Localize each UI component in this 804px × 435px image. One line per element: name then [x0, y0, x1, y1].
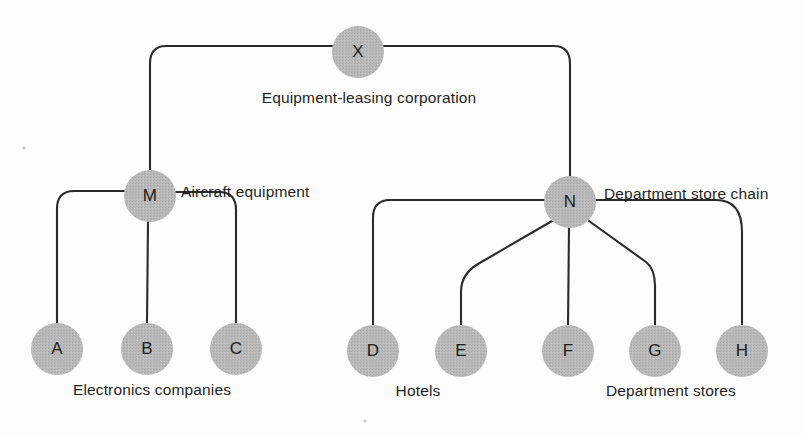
- node-b[interactable]: B: [121, 323, 173, 375]
- node-letter-g: G: [648, 341, 661, 360]
- node-e[interactable]: E: [435, 325, 487, 377]
- label-x: Equipment-leasing corporation: [262, 89, 477, 106]
- edge-m-to-c: [176, 192, 236, 323]
- node-letter-n: N: [564, 192, 576, 211]
- edge-x-to-m: [150, 46, 332, 170]
- node-letter-e: E: [455, 341, 467, 360]
- node-x[interactable]: X: [332, 26, 384, 78]
- node-letter-f: F: [563, 341, 574, 360]
- page-speck: [363, 419, 366, 422]
- org-hierarchy-diagram: XMNABCDEFGH Equipment-leasing corporatio…: [0, 0, 804, 435]
- label-n: Department store chain: [604, 185, 768, 202]
- node-letter-a: A: [51, 339, 63, 358]
- node-letter-c: C: [230, 339, 242, 358]
- node-m[interactable]: M: [124, 170, 176, 222]
- edge-n-to-f: [568, 228, 569, 325]
- node-n[interactable]: N: [544, 176, 596, 228]
- label-m: Aircraft equipment: [181, 183, 310, 200]
- node-letter-d: D: [367, 341, 379, 360]
- edge-m-to-a: [57, 191, 124, 323]
- node-d[interactable]: D: [347, 325, 399, 377]
- edge-n-to-e: [461, 221, 552, 325]
- node-letter-b: B: [141, 339, 153, 358]
- edge-x-to-n: [384, 46, 570, 176]
- label-fgh: Department stores: [606, 382, 736, 399]
- node-letter-x: X: [352, 42, 364, 61]
- label-abc: Electronics companies: [73, 381, 231, 398]
- diagram-canvas: XMNABCDEFGH Equipment-leasing corporatio…: [0, 0, 804, 435]
- page-speck: [22, 146, 25, 149]
- node-g[interactable]: G: [629, 325, 681, 377]
- node-h[interactable]: H: [716, 325, 768, 377]
- edge-m-to-b: [147, 222, 148, 323]
- edge-n-to-d: [373, 200, 544, 325]
- node-f[interactable]: F: [542, 325, 594, 377]
- edge-n-to-h: [596, 200, 742, 325]
- edge-n-to-g: [589, 221, 655, 325]
- node-letter-m: M: [143, 186, 157, 205]
- label-de: Hotels: [396, 382, 441, 399]
- node-letter-h: H: [736, 341, 748, 360]
- node-c[interactable]: C: [210, 323, 262, 375]
- node-a[interactable]: A: [31, 323, 83, 375]
